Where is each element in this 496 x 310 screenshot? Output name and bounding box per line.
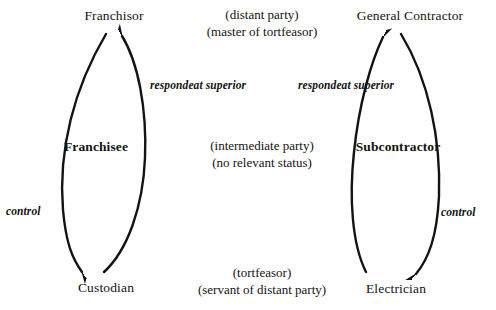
node-electrician: Electrician bbox=[366, 281, 426, 297]
center-status-top-line-1: (distant party) bbox=[207, 7, 317, 24]
respondeat-superior-diagram: Franchisor Franchisee Custodian responde… bbox=[0, 0, 496, 310]
right-superior-line-2: superior bbox=[354, 79, 394, 91]
node-custodian: Custodian bbox=[78, 280, 134, 296]
center-status-middle-line-2: (no relevant status) bbox=[210, 155, 314, 172]
right-respondeat-line-1: respondeat bbox=[298, 79, 351, 91]
center-status-middle: (intermediate party) (no relevant status… bbox=[210, 138, 314, 172]
center-status-bottom-line-2: (servant of distant party) bbox=[198, 282, 326, 299]
left-superior-line-2: superior bbox=[206, 79, 246, 91]
left-respondeat-superior-label: respondeat superior bbox=[150, 78, 246, 94]
center-status-top: (distant party) (master of tortfeasor) bbox=[207, 7, 317, 41]
center-status-bottom: (tortfeasor) (servant of distant party) bbox=[198, 265, 326, 299]
center-status-middle-line-1: (intermediate party) bbox=[210, 138, 314, 155]
node-subcontractor: Subcontractor bbox=[356, 139, 441, 155]
right-control-label: control bbox=[441, 205, 476, 221]
center-status-bottom-line-1: (tortfeasor) bbox=[198, 265, 326, 282]
node-general-contractor: General Contractor bbox=[357, 8, 464, 24]
left-control-label: control bbox=[6, 204, 41, 220]
left-respondeat-line-1: respondeat bbox=[150, 79, 203, 91]
center-status-top-line-2: (master of tortfeasor) bbox=[207, 24, 317, 41]
node-franchisor: Franchisor bbox=[84, 8, 143, 24]
node-franchisee: Franchisee bbox=[64, 139, 128, 155]
right-respondeat-superior-label: respondeat superior bbox=[298, 78, 394, 94]
